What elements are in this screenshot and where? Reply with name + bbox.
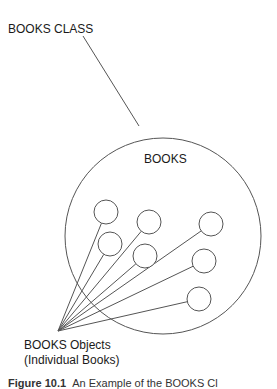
object-pointer-line (58, 223, 102, 331)
class-pointer-line (83, 36, 139, 126)
book-object-circle (187, 287, 211, 311)
book-object-circle (94, 200, 118, 224)
caption-text: An Example of the BOOKS Cl (72, 377, 218, 389)
book-object-circle (192, 249, 216, 273)
book-object-circle (199, 212, 223, 236)
class-circle (65, 138, 261, 334)
circle-label: BOOKS (144, 152, 187, 167)
object-pointer-line (58, 264, 136, 331)
figure-caption: Figure 10.1 An Example of the BOOKS Cl (8, 377, 218, 389)
book-object-circle (137, 210, 161, 234)
book-object-circle (98, 232, 122, 256)
objects-label-line2: (Individual Books) (24, 353, 119, 368)
objects-label-line1: BOOKS Objects (24, 338, 111, 353)
class-label: BOOKS CLASS (8, 22, 93, 37)
caption-prefix: Figure 10.1 (8, 377, 66, 389)
object-pointer-line (58, 266, 193, 331)
book-object-circle (133, 244, 157, 268)
object-pointer-line (58, 302, 187, 331)
